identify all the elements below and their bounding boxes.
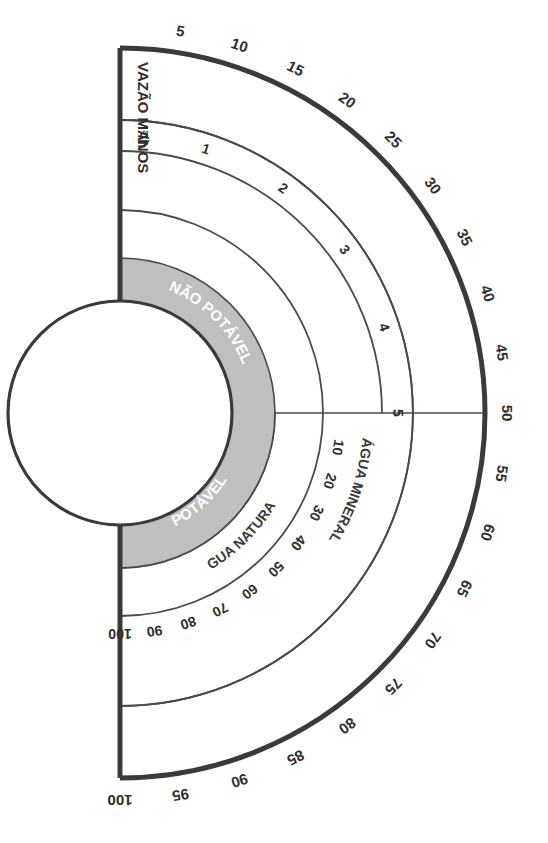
vazao-tick-label: 75 (382, 675, 406, 699)
vazao-tick-label: 30 (421, 174, 445, 197)
vazao-tick-label: 25 (382, 127, 406, 151)
hub-circle (8, 301, 232, 525)
vazao-tick-label: 35 (453, 226, 476, 249)
vazao-tick-label: 5 (175, 22, 186, 40)
hub-circle-layer (8, 301, 232, 525)
vazao-tick-label: 10 (229, 34, 250, 55)
vazao-tick-label: 15 (284, 57, 307, 80)
vazao-tick-label: 85 (284, 746, 307, 769)
vazao-tick-label: 80 (336, 714, 359, 738)
agua-mineral-tick-label: 90 (145, 622, 163, 640)
agua-mineral-tick-label: 10 (329, 439, 347, 457)
agua-mineral-tick-label: 100 (108, 626, 132, 642)
vazao-tick-label: 60 (477, 522, 498, 543)
vazao-tick-label: 40 (477, 283, 498, 304)
nomogram-canvas: 5101520253035404550556065707580859095100… (0, 0, 548, 843)
nomogram-diagram: 5101520253035404550556065707580859095100… (0, 0, 548, 843)
vazao-tick-label: 95 (171, 786, 190, 805)
vazao-tick-label: 70 (421, 629, 445, 652)
vazao-tick-label: 55 (493, 464, 512, 483)
vazao-tick-label: 100 (107, 792, 132, 809)
vazao-tick-label: 65 (453, 577, 476, 600)
vazao-tick-label: 50 (499, 405, 516, 422)
vazao-tick-label: 45 (493, 343, 512, 362)
anos-tick-label: 5 (390, 409, 406, 417)
anos-ring-title: ANOS (135, 130, 152, 173)
vazao-tick-label: 90 (229, 770, 250, 791)
vazao-tick-label: 20 (336, 88, 359, 112)
